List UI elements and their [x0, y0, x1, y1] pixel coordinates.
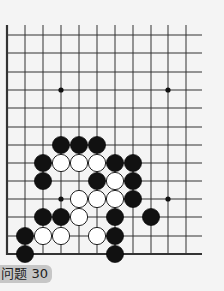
black-stone[interactable]: [70, 136, 87, 153]
black-stone[interactable]: [106, 227, 123, 244]
white-stone[interactable]: [70, 154, 87, 171]
black-stone[interactable]: [124, 172, 141, 189]
black-stone[interactable]: [16, 245, 33, 262]
black-stone[interactable]: [106, 245, 123, 262]
white-stone[interactable]: [70, 190, 87, 207]
white-stone[interactable]: [88, 227, 105, 244]
black-stone[interactable]: [34, 208, 51, 225]
white-stone[interactable]: [88, 190, 105, 207]
white-stone[interactable]: [52, 227, 69, 244]
white-stone[interactable]: [34, 227, 51, 244]
black-stone[interactable]: [124, 190, 141, 207]
white-stone[interactable]: [52, 154, 69, 171]
black-stone[interactable]: [52, 136, 69, 153]
star-point: [165, 196, 170, 201]
star-point: [58, 196, 63, 201]
white-stone[interactable]: [88, 154, 105, 171]
black-stone[interactable]: [34, 172, 51, 189]
white-stone[interactable]: [106, 172, 123, 189]
black-stone[interactable]: [34, 154, 51, 171]
black-stone[interactable]: [88, 136, 105, 153]
white-stone[interactable]: [106, 190, 123, 207]
white-stone[interactable]: [70, 208, 87, 225]
black-stone[interactable]: [16, 227, 33, 244]
go-board[interactable]: [0, 0, 224, 291]
problem-label-tab: 问题 30: [0, 265, 52, 283]
black-stone[interactable]: [142, 208, 159, 225]
star-point: [58, 87, 63, 92]
problem-label: 问题 30: [1, 265, 48, 283]
black-stone[interactable]: [106, 208, 123, 225]
black-stone[interactable]: [106, 154, 123, 171]
black-stone[interactable]: [88, 172, 105, 189]
black-stone[interactable]: [124, 154, 141, 171]
black-stone[interactable]: [52, 208, 69, 225]
star-point: [165, 87, 170, 92]
